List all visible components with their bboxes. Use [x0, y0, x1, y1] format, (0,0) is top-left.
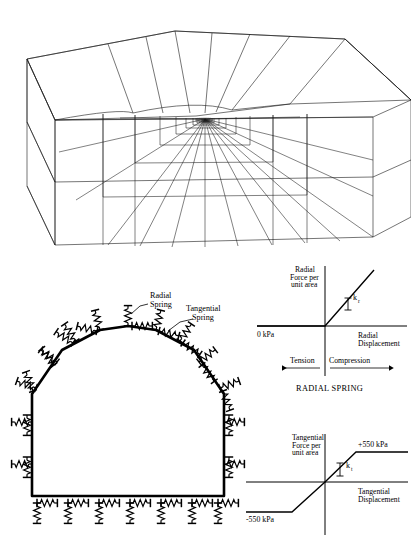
radial-xlabel-line2: Displacement — [358, 339, 401, 348]
invert-springs-group — [33, 499, 239, 524]
invert-spring-pair — [157, 499, 182, 524]
tunnel-annotations: Radial Spring Tangential Spring — [131, 291, 221, 331]
radial-spring-chart-panel: k r Radial Force per unit area 0 kPa Rad… — [252, 258, 411, 398]
radial-ylabel-line3: unit area — [291, 280, 318, 289]
tangential-spring-label-line1: Tangential — [186, 304, 221, 313]
tangential-slope-subscript: t — [351, 466, 353, 472]
tangential-negative-yield-label: -550 kPa — [246, 515, 274, 524]
tangential-positive-yield-label: +550 kPa — [358, 440, 388, 449]
tangential-xlabel-line2: Displacement — [358, 495, 401, 504]
radial-spring-label-line2: Spring — [150, 300, 172, 309]
radial-slope-marker — [345, 298, 352, 310]
radial-compression-label: Compression — [329, 356, 370, 365]
radial-sign-convention: Tension Compression — [282, 356, 389, 368]
radial-spring-caption: RADIAL SPRING — [296, 384, 363, 393]
tangential-spring-leader — [168, 319, 193, 331]
tunnel-cross-section-svg: Radial Spring Tangential Spring — [0, 252, 258, 547]
radial-tension-label: Tension — [290, 356, 315, 365]
tunnel-cross-section-panel: Radial Spring Tangential Spring — [0, 252, 258, 547]
mesh-front-face — [55, 100, 411, 245]
radial-spring-label-line1: Radial — [150, 291, 172, 300]
invert-spring-pair — [95, 499, 120, 524]
radial-origin-label: 0 kPa — [257, 330, 275, 339]
mesh-left-face — [27, 59, 55, 245]
tangential-springs-group — [22, 322, 234, 478]
tangential-spring-label-line2: Spring — [192, 313, 214, 322]
tangential-spring — [199, 362, 218, 383]
mesh-3d-svg — [0, 0, 411, 252]
tangential-spring-chart-svg: k t Tangential Force per unit area +550 … — [240, 420, 411, 547]
radial-springs-group — [12, 306, 245, 469]
tangential-spring — [225, 415, 233, 435]
mesh-3d-panel — [0, 0, 411, 252]
mesh-radial-pattern — [55, 114, 373, 247]
tangential-slope-label: k — [346, 461, 350, 470]
mesh-wireframe — [27, 31, 411, 247]
tangential-spring — [219, 390, 234, 412]
radial-spring-chart-svg: k r Radial Force per unit area 0 kPa Rad… — [252, 258, 411, 398]
invert-spring-pair — [33, 499, 58, 524]
tangential-ylabel-line3: unit area — [292, 448, 319, 457]
invert-spring-pair — [214, 499, 239, 524]
invert-spring-pair — [126, 499, 151, 524]
invert-spring-pair — [188, 499, 213, 524]
tangential-spring — [225, 457, 233, 477]
radial-spring-leader — [131, 304, 148, 314]
radial-slope-subscript: r — [358, 298, 360, 304]
invert-spring-pair — [64, 499, 89, 524]
mesh-top-face — [27, 31, 411, 120]
radial-spring-crown — [124, 306, 132, 326]
radial-spring — [152, 309, 165, 331]
radial-slope-label: k — [353, 293, 357, 302]
tangential-spring-chart-panel: k t Tangential Force per unit area +550 … — [240, 420, 411, 547]
